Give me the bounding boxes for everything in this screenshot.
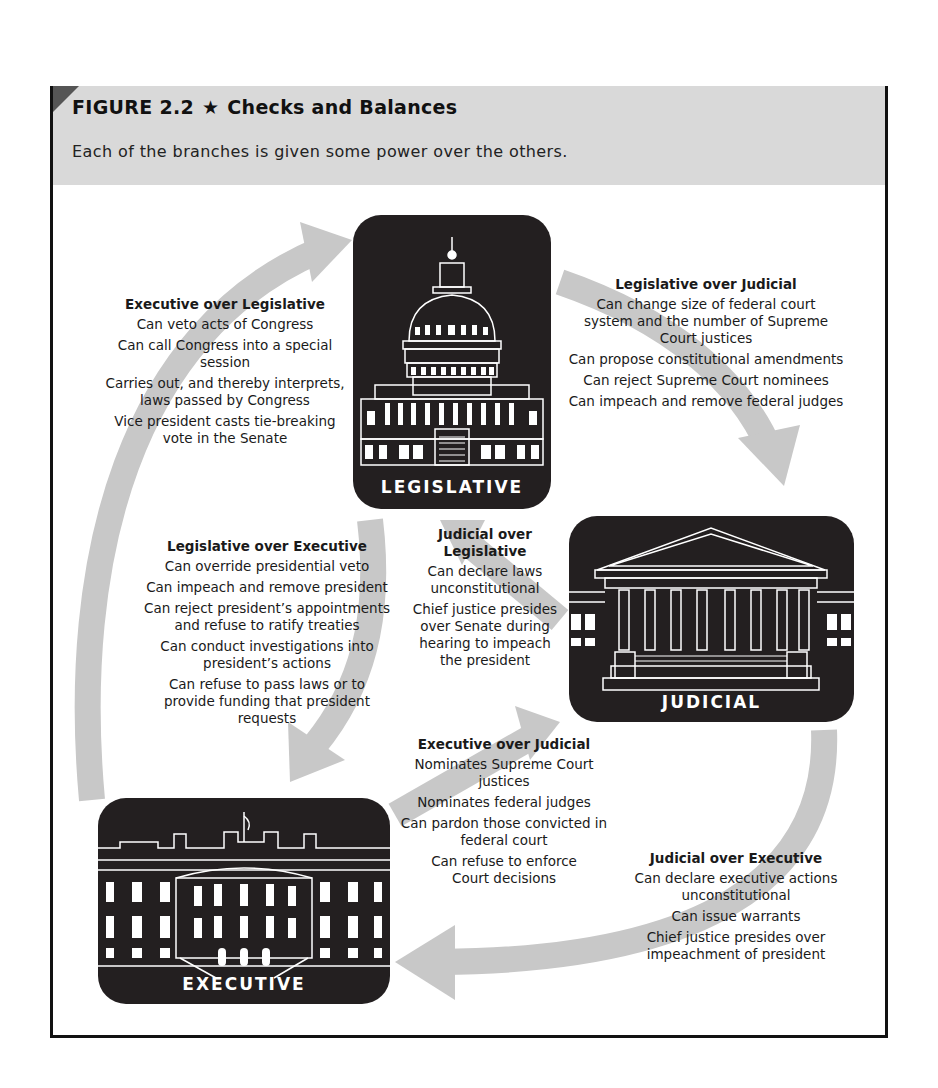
check-item: Nominates federal judges	[392, 794, 616, 811]
check-item: Can declare laws unconstitutional	[400, 563, 570, 597]
check-item: Can reject Supreme Court nominees	[556, 372, 856, 389]
check-item: Can issue warrants	[616, 908, 856, 925]
check-item: Nominates Supreme Court justices	[392, 756, 616, 790]
check-leg-over-jud: Legislative over Judicial Can change siz…	[556, 276, 856, 414]
check-heading: Legislative over Executive	[140, 538, 394, 555]
legislative-label: LEGISLATIVE	[353, 477, 551, 497]
check-leg-over-exec: Legislative over Executive Can override …	[140, 538, 394, 731]
check-item: Can pardon those convicted in federal co…	[392, 815, 616, 849]
check-heading: Legislative over Judicial	[556, 276, 856, 293]
check-item: Can change size of federal court system …	[556, 296, 856, 347]
check-item: Chief justice presides over impeachment …	[616, 929, 856, 963]
check-heading: Executive over Legislative	[100, 296, 350, 313]
check-item: Can refuse to pass laws or to provide fu…	[140, 676, 394, 727]
executive-label: EXECUTIVE	[98, 974, 390, 994]
check-item: Chief justice presides over Senate durin…	[400, 601, 570, 669]
check-heading: Executive over Judicial	[392, 736, 616, 753]
arrowhead-jud-to-exec	[395, 925, 455, 1000]
check-exec-over-leg: Executive over Legislative Can veto acts…	[100, 296, 350, 451]
check-item: Vice president casts tie-breaking vote i…	[100, 413, 350, 447]
legislative-branch-box: LEGISLATIVE	[353, 215, 551, 509]
check-jud-over-leg: Judicial over Legislative Can declare la…	[400, 526, 570, 673]
check-item: Can declare executive actions unconstitu…	[616, 870, 856, 904]
judicial-label: JUDICIAL	[569, 692, 854, 712]
check-item: Can call Congress into a special session	[100, 337, 350, 371]
arrowhead-exec-to-leg	[300, 222, 352, 282]
check-item: Can impeach and remove federal judges	[556, 393, 856, 410]
check-jud-over-exec: Judicial over Executive Can declare exec…	[616, 850, 856, 967]
check-item: Can conduct investigations into presiden…	[140, 638, 394, 672]
check-item: Can override presidential veto	[140, 558, 394, 575]
check-heading: Judicial over Legislative	[400, 526, 570, 560]
check-item: Can impeach and remove president	[140, 579, 394, 596]
check-exec-over-jud: Executive over Judicial Nominates Suprem…	[392, 736, 616, 891]
check-item: Can propose constitutional amendments	[556, 351, 856, 368]
check-item: Can reject president’s appointments and …	[140, 600, 394, 634]
arrowhead-leg-to-jud	[738, 425, 800, 486]
check-item: Carries out, and thereby interprets, law…	[100, 375, 350, 409]
judicial-branch-box: JUDICIAL	[569, 516, 854, 722]
check-item: Can refuse to enforce Court decisions	[392, 853, 616, 887]
executive-branch-box: EXECUTIVE	[98, 798, 390, 1004]
check-item: Can veto acts of Congress	[100, 316, 350, 333]
check-heading: Judicial over Executive	[616, 850, 856, 867]
capitol-building-icon	[353, 215, 551, 509]
